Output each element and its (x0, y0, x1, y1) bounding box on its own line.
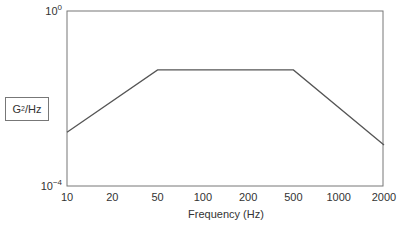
x-tick-label: 10 (61, 191, 73, 203)
x-tick-label: 50 (151, 191, 163, 203)
psd-line (67, 70, 384, 145)
x-tick-label: 100 (194, 191, 212, 203)
x-tick-label: 200 (239, 191, 257, 203)
y-tick-top: 100 (45, 3, 62, 17)
x-tick-labels: 10205010020050010002000 (61, 191, 396, 203)
x-axis-title: Frequency (Hz) (188, 208, 264, 220)
x-tick-label: 500 (284, 191, 302, 203)
y-axis-title-rest: /Hz (25, 103, 42, 115)
y-axis-title: G2/Hz (5, 97, 49, 121)
x-tick-label: 20 (106, 191, 118, 203)
x-tick-label: 2000 (372, 191, 396, 203)
x-tick-label: 1000 (326, 191, 350, 203)
y-tick-bottom: 10−4 (41, 178, 63, 192)
psd-chart: 100 10−4 10205010020050010002000 Frequen… (0, 0, 403, 225)
plot-frame (67, 11, 383, 186)
y-axis-title-base: G (13, 103, 22, 115)
